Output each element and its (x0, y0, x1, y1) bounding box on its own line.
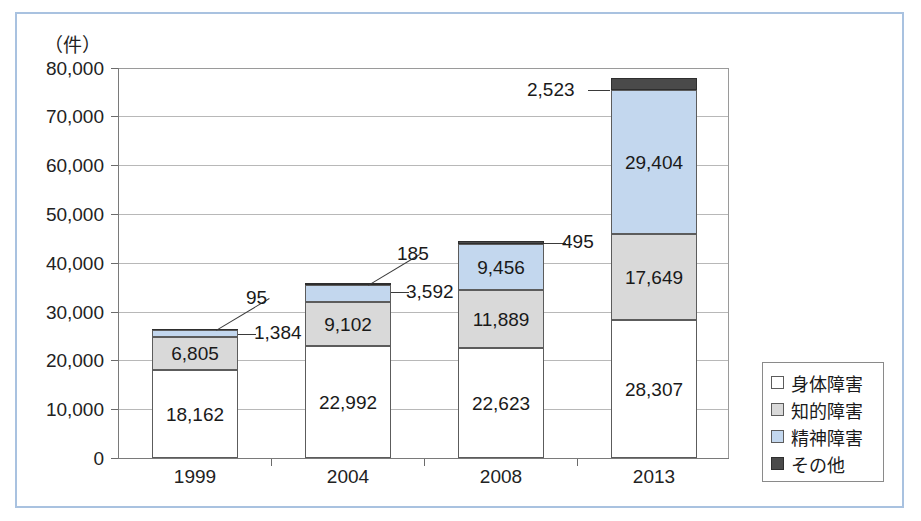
x-tick-label-1999: 1999 (155, 466, 235, 488)
bar-2013-segment-mental[interactable]: 29,404 (611, 90, 697, 234)
bar-2013-segment-other[interactable] (611, 78, 697, 90)
legend-label-mental: 精神障害 (791, 424, 863, 450)
plot-right-border (728, 68, 729, 459)
legend-item-physical[interactable]: 身体障害 (771, 369, 883, 396)
bar-1999-segment-physical[interactable]: 18,162 (152, 370, 238, 458)
x-tickmark-2 (424, 459, 425, 466)
callout-leader-2523 (588, 90, 610, 91)
bar-1999[interactable]: 6,805 18,162 (152, 329, 238, 458)
bar-2013-label-physical: 28,307 (625, 380, 683, 399)
bar-2008-label-physical: 22,623 (472, 394, 530, 413)
x-tickmark-3 (577, 459, 578, 466)
legend-label-physical: 身体障害 (791, 370, 863, 396)
bar-2008[interactable]: 9,456 11,889 22,623 (458, 241, 544, 458)
bar-2013[interactable]: 29,404 17,649 28,307 (611, 78, 697, 458)
legend-item-other[interactable]: その他 (771, 450, 883, 477)
y-tick-label-70000: 70,000 (20, 106, 104, 128)
callout-95: 95 (246, 287, 267, 309)
y-axis-unit-label: （件） (44, 30, 101, 57)
y-tickmark-0 (111, 458, 118, 459)
x-tick-label-2004: 2004 (308, 466, 388, 488)
y-tick-label-10000: 10,000 (20, 399, 104, 421)
bar-1999-segment-mental[interactable] (152, 330, 238, 337)
legend-label-intellectual: 知的障害 (791, 397, 863, 423)
y-tickmark-80000 (111, 68, 118, 69)
callout-3592: 3,592 (406, 281, 454, 303)
bar-2004-label-physical: 22,992 (319, 393, 377, 412)
bar-2013-segment-physical[interactable]: 28,307 (611, 320, 697, 458)
y-tick-label-50000: 50,000 (20, 204, 104, 226)
callout-1384: 1,384 (254, 322, 302, 344)
bar-2013-segment-intellectual[interactable]: 17,649 (611, 234, 697, 320)
bar-2004-segment-intellectual[interactable]: 9,102 (305, 302, 391, 346)
y-tick-label-20000: 20,000 (20, 350, 104, 372)
legend-item-mental[interactable]: 精神障害 (771, 423, 883, 450)
callout-495: 495 (562, 231, 594, 253)
y-tick-label-30000: 30,000 (20, 302, 104, 324)
legend-swatch-intellectual-icon (771, 403, 784, 416)
bar-2004-segment-mental[interactable] (305, 285, 391, 302)
x-tickmark-1 (271, 459, 272, 466)
bar-2008-label-mental: 9,456 (477, 258, 525, 277)
y-tick-label-60000: 60,000 (20, 155, 104, 177)
legend-label-other: その他 (791, 451, 845, 477)
callout-2523: 2,523 (527, 79, 575, 101)
y-tickmark-50000 (111, 214, 118, 215)
legend-swatch-mental-icon (771, 430, 784, 443)
y-tickmark-10000 (111, 409, 118, 410)
y-tickmark-30000 (111, 312, 118, 313)
y-tickmark-60000 (111, 165, 118, 166)
x-tick-label-2013: 2013 (614, 466, 694, 488)
y-tickmark-20000 (111, 360, 118, 361)
y-axis-line (118, 68, 119, 458)
bar-2013-label-mental: 29,404 (625, 153, 683, 172)
bar-2004[interactable]: 9,102 22,992 (305, 283, 391, 458)
y-tick-label-0: 0 (20, 448, 104, 470)
bar-1999-segment-intellectual[interactable]: 6,805 (152, 337, 238, 370)
bar-2004-segment-physical[interactable]: 22,992 (305, 346, 391, 458)
plot-top-border (118, 68, 729, 69)
y-tickmark-70000 (111, 116, 118, 117)
bar-2008-segment-intellectual[interactable]: 11,889 (458, 290, 544, 348)
y-tick-label-40000: 40,000 (20, 253, 104, 275)
x-tick-label-2008: 2008 (461, 466, 541, 488)
chart-legend: 身体障害 知的障害 精神障害 その他 (762, 362, 884, 482)
bar-2004-label-intellectual: 9,102 (324, 315, 372, 334)
bar-2008-segment-mental[interactable]: 9,456 (458, 244, 544, 290)
bar-1999-label-physical: 18,162 (166, 405, 224, 424)
chart-figure: （件） 80,000 70,000 60,000 50,000 40,000 3… (0, 0, 921, 521)
legend-swatch-other-icon (771, 457, 784, 470)
bar-2013-label-intellectual: 17,649 (625, 268, 683, 287)
bar-2008-label-intellectual: 11,889 (473, 310, 530, 329)
bar-2008-segment-physical[interactable]: 22,623 (458, 348, 544, 458)
y-tick-label-80000: 80,000 (20, 58, 104, 80)
y-tickmark-40000 (111, 263, 118, 264)
legend-item-intellectual[interactable]: 知的障害 (771, 396, 883, 423)
bar-1999-label-intellectual: 6,805 (171, 344, 219, 363)
callout-185: 185 (397, 243, 429, 265)
legend-swatch-physical-icon (771, 376, 784, 389)
